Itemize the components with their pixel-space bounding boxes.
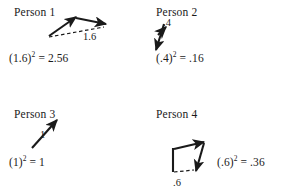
person-1-equation-base: (1.6) xyxy=(9,52,32,64)
person-1-vector-a xyxy=(49,17,76,36)
panel-person-3: Person 3 1 (1)2 = 1 xyxy=(0,98,142,196)
person-4-magnitude-label: .6 xyxy=(173,177,181,188)
person-4-equation-rest: = .36 xyxy=(238,156,265,168)
person-2-vector-diagram xyxy=(142,0,283,98)
person-1-equation-rest: = 2.56 xyxy=(35,52,68,64)
person-3-equation-rest: = 1 xyxy=(27,156,45,168)
person-3-equation: (1)2 = 1 xyxy=(9,156,45,168)
person-3-equation-base: (1) xyxy=(9,156,23,168)
person-2-equation-base: (.4) xyxy=(156,52,173,64)
person-4-vector-b xyxy=(196,143,204,171)
person-1-magnitude-label: 1.6 xyxy=(83,31,96,42)
panel-person-2: Person 2 .4 (.4)2 = .16 xyxy=(142,0,283,98)
person-2-magnitude-label: .4 xyxy=(163,17,171,28)
person-1-vector-b xyxy=(76,18,106,24)
person-4-vector-diagram xyxy=(142,98,283,196)
person-3-magnitude-label: 1 xyxy=(40,129,45,140)
vector-addition-figure: Person 1 1.6 (1.6)2 = 2.56 Person 2 xyxy=(0,0,283,196)
panel-person-4: Person 4 .6 (.6)2 = .36 xyxy=(142,98,283,196)
person-4-equation: (.6)2 = .36 xyxy=(217,156,265,168)
person-4-equation-base: (.6) xyxy=(217,156,234,168)
person-2-equation-rest: = .16 xyxy=(177,52,204,64)
person-4-vector-a xyxy=(174,142,204,149)
panel-person-1: Person 1 1.6 (1.6)2 = 2.56 xyxy=(0,0,142,98)
person-1-vector-diagram xyxy=(0,0,142,98)
person-1-equation: (1.6)2 = 2.56 xyxy=(9,52,68,64)
person-4-resultant-dashed xyxy=(174,170,194,172)
person-2-equation: (.4)2 = .16 xyxy=(156,52,204,64)
person-3-vector-diagram xyxy=(0,98,142,196)
